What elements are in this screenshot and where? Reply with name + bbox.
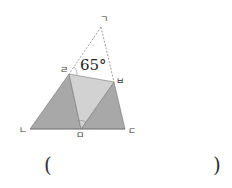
point-label-mieum: ㅁ xyxy=(76,131,84,140)
point-label-digeut: ㄷ xyxy=(128,127,136,136)
point-label-nieun: ㄴ xyxy=(19,126,27,135)
angle-arc-rieul xyxy=(74,67,77,75)
answer-open-paren: ( xyxy=(44,155,52,175)
point-label-bieup: ㅂ xyxy=(116,77,124,86)
answer-close-paren: ) xyxy=(213,155,221,175)
point-label-giyeok: ㄱ xyxy=(100,15,108,24)
point-label-rieul: ㄹ xyxy=(60,66,68,75)
angle-label: 65° xyxy=(80,58,107,73)
answer-blank[interactable] xyxy=(60,158,210,176)
